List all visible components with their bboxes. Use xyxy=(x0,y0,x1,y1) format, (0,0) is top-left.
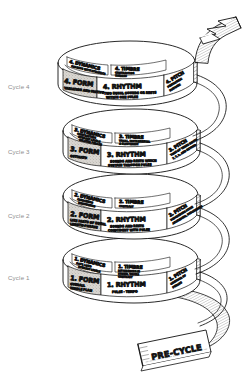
diagram-canvas: Cycle 4 Cycle 3 Cycle 2 Cycle 1 xyxy=(0,0,249,378)
cycle-2-band: 2. FORM LIKE PARTS OF EQUAL LENGTH-PHRAS… xyxy=(63,174,203,239)
cycle-2-timbre-detail: CONTRAST xyxy=(119,205,134,209)
cycle-3-band: 3. FORM OSTINATO 3. RHYTHM SOUNDS AND RE… xyxy=(63,109,200,174)
cycle-4-timbre-detail-2: TIMBRES xyxy=(115,75,127,78)
cycle-2-rhythm-detail-2: COINCIDENT WITH PULSE xyxy=(108,228,150,233)
spiral-ribbon-graphic: PRE-CYCLE xyxy=(0,0,249,378)
cycle-2-timbre-heading: 2. TIMBRE xyxy=(119,199,144,205)
cycle-1-rhythm-detail: PULSE - TEMPO xyxy=(112,290,138,294)
cycle-1-rhythm-heading: 1. RHYTHM xyxy=(107,280,146,289)
cycle-4-band: 4. FORM VARIATION AND MOTIVE 4. RHYTHM T… xyxy=(58,41,197,106)
cycle-2-rhythm-heading: 2. RHYTHM xyxy=(107,215,146,224)
ribbon-torn-end xyxy=(195,17,241,63)
cycle-4-rhythm-heading: 4. RHYTHM xyxy=(103,82,142,91)
cycle-1-band: 1. FORM OVERALL WHOLE PLAN 1. RHYTHM PUL… xyxy=(63,238,200,303)
cycle-3-timbre-detail-2: & ELECTRONIC xyxy=(119,143,139,147)
cycle-1-timbre-detail-3: CONTRAST xyxy=(118,276,133,280)
cycle-4-rhythm-detail-2: WITHIN ONE PULSE xyxy=(106,95,138,100)
cycle-3-rhythm-detail-2: SUSTAIN THROUGH PULSE xyxy=(108,163,152,168)
cycle-3-rhythm-heading: 3. RHYTHM xyxy=(107,150,146,159)
